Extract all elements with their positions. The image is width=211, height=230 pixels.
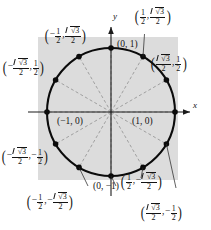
label-point-neg1over2-sqrt3over2: (−12,√32) (44, 26, 87, 45)
minus-sign-y: − (31, 151, 36, 161)
paren-open: ( (141, 204, 145, 221)
minus-sign: − (8, 62, 13, 72)
fraction-y: 12 (37, 149, 43, 166)
paren-close: ) (182, 55, 186, 72)
fraction-y: 12 (171, 205, 177, 222)
fraction-y: √32 (150, 7, 165, 26)
fraction-x: 12 (37, 194, 43, 211)
paren-open: ( (151, 55, 155, 72)
label-point-neg1-0: (−1, 0) (57, 117, 83, 127)
point-neg1-0 (44, 109, 50, 115)
fraction-x: 12 (140, 9, 146, 26)
minus-sign: − (50, 30, 55, 40)
unit-circle-figure: y x (0, 1) (0, −1) (1, 0) (−1, 0) (12,√3… (0, 0, 211, 230)
fraction-y: 12 (175, 56, 181, 73)
minus-sign-x: − (7, 151, 12, 161)
label-point-negsqrt3over2-neg1over2: (−√32,−12) (1, 147, 49, 166)
paren-close: ) (69, 193, 73, 210)
radical-num: √3 (53, 192, 68, 202)
label-point-negsqrt3over2-1over2: (−√32,12) (2, 58, 45, 77)
label-point-neg1over2-negsqrt3over2: (−12,−√32) (26, 192, 74, 211)
fraction-x: √32 (12, 147, 27, 166)
radical-num: √3 (146, 203, 161, 213)
point-negsqrt3over2-neg1over2 (53, 141, 59, 147)
radical-num: √3 (12, 147, 27, 157)
label-point-1over2-negsqrt3over2: (12,−√32) (120, 172, 163, 191)
radical-num: √3 (156, 54, 171, 64)
paren-open: ( (27, 193, 31, 210)
x-axis-label: x (193, 101, 197, 110)
label-point-1-0: (1, 0) (132, 117, 153, 127)
paren-open: ( (2, 148, 6, 165)
label-point-0-1: (0, 1) (117, 40, 138, 50)
minus-sign-y: − (47, 196, 52, 206)
paren-open: ( (45, 27, 49, 44)
radical-num: √3 (141, 172, 156, 182)
point-negsqrt3over2-1over2 (53, 77, 59, 83)
fraction-x: √32 (156, 54, 171, 73)
radical-num: √3 (150, 7, 165, 17)
point-neg1over2-sqrt3over2 (76, 54, 82, 60)
fraction-y: 12 (33, 60, 39, 77)
fraction-x: 12 (126, 174, 132, 191)
point-0-1 (108, 45, 114, 51)
paren-close: ) (44, 148, 48, 165)
label-point-1over2-sqrt3over2: (12,√32) (134, 7, 171, 26)
y-axis-arrow (108, 27, 114, 34)
paren-close: ) (178, 204, 182, 221)
paren-open: ( (121, 173, 125, 190)
radical-num: √3 (65, 26, 80, 36)
radical-num: √3 (13, 58, 28, 68)
paren-close: ) (166, 8, 170, 25)
paren-close: ) (82, 27, 86, 44)
label-point-sqrt3over2-neg1over2: (√32,−12) (140, 203, 183, 222)
label-point-0-neg1: (0, −1) (93, 182, 119, 192)
fraction-x: √32 (13, 58, 28, 77)
paren-open: ( (135, 8, 139, 25)
fraction-x: √32 (146, 203, 161, 222)
paren-close: ) (40, 59, 44, 76)
fraction-y: √32 (53, 192, 68, 211)
fraction-x: 12 (55, 28, 61, 45)
fraction-y: √32 (65, 26, 80, 45)
label-point-sqrt3over2-1over2: (√32,12) (150, 54, 187, 73)
x-axis-arrow (183, 109, 190, 115)
paren-open: ( (3, 59, 7, 76)
fraction-y: √32 (141, 172, 156, 191)
minus-sign-y: − (165, 207, 170, 217)
y-axis-label: y (113, 12, 117, 21)
point-1-0 (172, 109, 178, 115)
paren-close: ) (158, 173, 162, 190)
minus-sign-x: − (32, 196, 37, 206)
point-sqrt3over2-1over2 (164, 77, 170, 83)
